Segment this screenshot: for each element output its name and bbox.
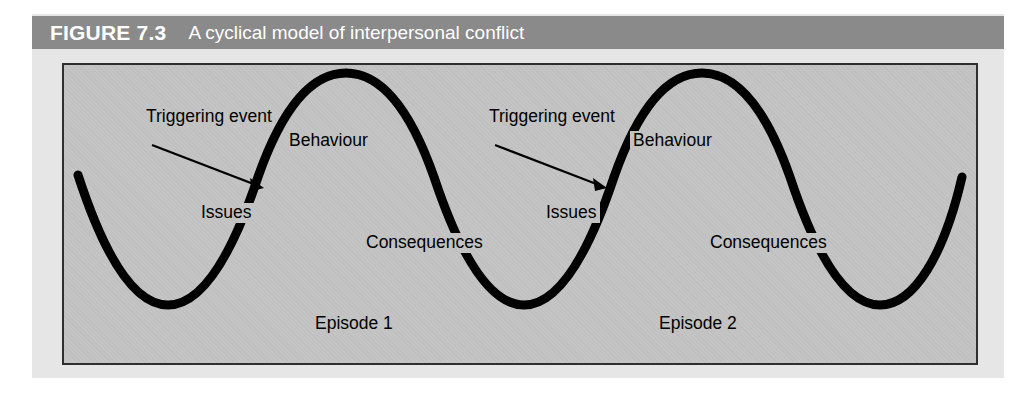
figure-number: FIGURE 7.3 <box>50 21 166 45</box>
label-episode-2: Episode 2 <box>659 315 737 333</box>
label-issues-2: Issues <box>543 203 600 223</box>
label-issues-1: Issues <box>198 203 255 223</box>
figure-caption: A cyclical model of interpersonal confli… <box>188 22 524 44</box>
label-consequences-1: Consequences <box>363 233 486 253</box>
arrow-triggering-event-1 <box>152 145 264 191</box>
label-triggering-event-1: Triggering event <box>146 108 272 126</box>
figure-container: FIGURE 7.3 A cyclical model of interpers… <box>0 0 1034 399</box>
arrow-triggering-event-2 <box>495 145 607 191</box>
label-triggering-event-2: Triggering event <box>489 108 615 126</box>
diagram-box: Triggering event Issues Behaviour Conseq… <box>62 63 978 365</box>
label-behaviour-2: Behaviour <box>630 131 715 151</box>
label-consequences-2: Consequences <box>707 233 830 253</box>
label-episode-1: Episode 1 <box>315 315 393 333</box>
label-behaviour-1: Behaviour <box>286 131 371 151</box>
figure-title-bar: FIGURE 7.3 A cyclical model of interpers… <box>32 16 1004 49</box>
